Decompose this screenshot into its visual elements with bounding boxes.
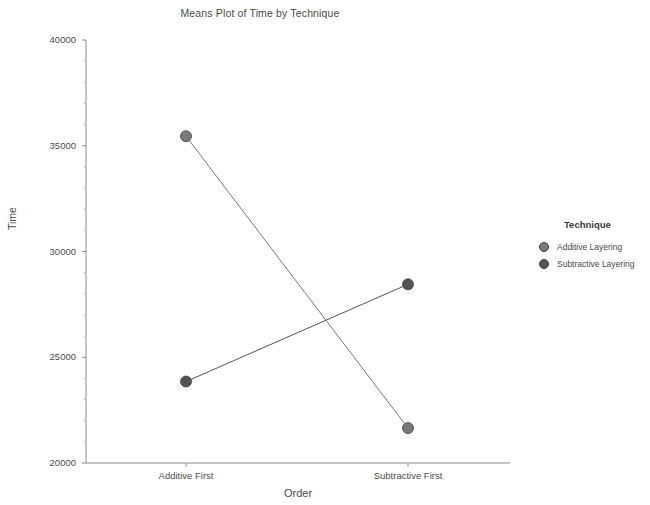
x-axis-tick-label: Subtractive First [328,470,488,481]
legend-item-label: Subtractive Layering [557,259,635,269]
legend-item-label: Additive Layering [557,242,622,252]
y-axis-tick-label: 30000 [24,246,76,257]
x-axis-ticks [186,463,408,467]
means-plot-figure: Means Plot of Time by Technique Time Ord… [0,0,650,505]
x-axis-tick-label: Additive First [106,470,266,481]
legend-item[interactable]: Additive Layering [536,239,648,255]
data-point [181,376,192,387]
legend-marker-icon [539,259,549,269]
series-line [186,284,408,381]
legend: Technique Additive LayeringSubtractive L… [536,219,648,273]
series-line [186,136,408,428]
y-axis-tick-label: 25000 [24,351,76,362]
data-point [403,423,414,434]
y-axis-tick-label: 20000 [24,457,76,468]
legend-item[interactable]: Subtractive Layering [536,256,648,272]
series-lines [186,136,408,428]
legend-title: Technique [564,219,648,230]
legend-marker-icon [539,242,549,252]
x-axis-label: Order [86,487,510,499]
legend-entries: Additive LayeringSubtractive Layering [536,239,648,272]
y-axis-tick-label: 35000 [24,140,76,151]
y-axis-tick-label: 40000 [24,34,76,45]
y-axis-label: Time [6,207,18,230]
data-point [403,279,414,290]
data-point [181,131,192,142]
